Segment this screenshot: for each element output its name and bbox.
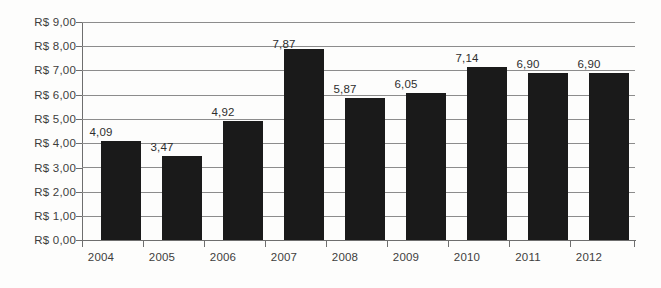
x-axis-tick-mark [326,241,327,247]
y-axis-tick-label: R$ 8,00 [16,40,76,52]
x-axis-tick-mark [143,241,144,247]
y-axis-tick-label: R$ 1,00 [16,210,76,222]
plot-area [82,22,635,240]
x-axis-tick-mark [387,241,388,247]
bar-value-label-2010: 7,14 [437,52,497,64]
bar-2006[interactable] [223,121,263,240]
gridline [82,70,635,71]
y-axis-tick-label: R$ 2,00 [16,186,76,198]
x-axis-tick-mark [634,241,635,247]
x-axis-tick-mark [448,241,449,247]
bar-2008[interactable] [345,98,385,240]
x-axis-label-2004: 2004 [71,251,131,263]
x-axis-label-2006: 2006 [193,251,253,263]
bar-value-label-2006: 4,92 [193,106,253,118]
bar-value-label-2007: 7,87 [254,38,314,50]
x-axis-label-2011: 2011 [498,251,558,263]
bar-value-label-2005: 3,47 [132,141,192,153]
bar-value-label-2012: 6,90 [559,58,619,70]
x-axis-label-2008: 2008 [315,251,375,263]
x-axis-tick-mark [570,241,571,247]
x-axis-tick-mark [82,241,83,247]
x-axis-label-2007: 2007 [254,251,314,263]
bar-value-label-2011: 6,90 [498,58,558,70]
x-axis-label-2012: 2012 [559,251,619,263]
x-axis-tick-mark [265,241,266,247]
bar-2009[interactable] [406,93,446,240]
x-axis-tick-mark [509,241,510,247]
bar-value-label-2004: 4,09 [71,126,131,138]
bar-2007[interactable] [284,49,324,240]
y-axis-tick-label: R$ 3,00 [16,162,76,174]
bar-2005[interactable] [162,156,202,240]
bar-value-label-2008: 5,87 [315,83,375,95]
x-axis-label-2005: 2005 [132,251,192,263]
y-axis-tick-label: R$ 6,00 [16,89,76,101]
bar-2004[interactable] [101,141,141,240]
x-axis-tick-mark [204,241,205,247]
bar-value-label-2009: 6,05 [376,78,436,90]
gridline [82,22,635,23]
y-axis-tick-label: R$ 7,00 [16,64,76,76]
gridline [82,46,635,47]
x-axis-line [82,240,636,241]
y-axis-tick-label: R$ 9,00 [16,16,76,28]
y-axis-tick-label: R$ 5,00 [16,113,76,125]
y-axis-tick-label: R$ 4,00 [16,137,76,149]
bar-chart: R$ 9,00 R$ 8,00 R$ 7,00 R$ 6,00 R$ 5,00 … [0,0,661,288]
y-axis-labels: R$ 9,00 R$ 8,00 R$ 7,00 R$ 6,00 R$ 5,00 … [12,0,76,288]
bar-2010[interactable] [467,67,507,240]
y-axis-tick-label: R$ 0,00 [16,234,76,246]
bar-2012[interactable] [589,73,629,240]
bar-2011[interactable] [528,73,568,240]
x-axis-label-2010: 2010 [437,251,497,263]
x-axis-label-2009: 2009 [376,251,436,263]
